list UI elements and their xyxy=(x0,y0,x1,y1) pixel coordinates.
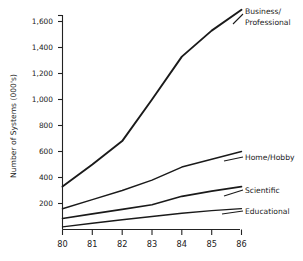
y-tick-label-1600: 1,600 xyxy=(32,17,53,26)
x-tick-label-81: 81 xyxy=(87,239,97,249)
x-axis-ticks xyxy=(63,230,242,236)
leader-line-educational xyxy=(222,211,243,214)
x-tick-label-86: 86 xyxy=(236,239,246,249)
leader-line-home-hobby xyxy=(224,157,243,161)
y-axis-title: Number of Systems (000's) xyxy=(9,74,18,178)
series-label-business-line2: Professional xyxy=(245,18,291,27)
series-label-home-hobby: Home/Hobby xyxy=(245,153,295,162)
series-line-business-professional xyxy=(63,10,242,187)
x-tick-label-80: 80 xyxy=(57,239,67,249)
x-tick-label-83: 83 xyxy=(147,239,157,249)
x-tick-label-85: 85 xyxy=(206,239,216,249)
chart-container: Number of Systems (000's) 200 400 600 80… xyxy=(0,0,303,261)
series-label-business-line1: Business/ xyxy=(245,7,281,16)
line-chart: Number of Systems (000's) 200 400 600 80… xyxy=(0,0,303,261)
series-label-scientific: Scientific xyxy=(245,186,280,195)
series-line-scientific xyxy=(63,187,242,219)
y-axis-ticks xyxy=(58,16,63,204)
y-tick-label-200: 200 xyxy=(39,199,53,208)
y-tick-label-400: 400 xyxy=(39,173,53,182)
leader-line-scientific xyxy=(224,190,243,196)
y-tick-label-1200: 1,200 xyxy=(32,69,53,78)
y-tick-label-1400: 1,400 xyxy=(32,43,53,52)
series-line-home-hobby xyxy=(63,152,242,209)
y-tick-label-800: 800 xyxy=(39,121,53,130)
series-line-educational xyxy=(63,209,242,227)
x-tick-label-82: 82 xyxy=(117,239,127,249)
series-label-educational: Educational xyxy=(245,207,290,216)
y-tick-label-600: 600 xyxy=(39,147,53,156)
x-tick-label-84: 84 xyxy=(177,239,187,249)
y-tick-label-1000: 1,000 xyxy=(32,95,53,104)
